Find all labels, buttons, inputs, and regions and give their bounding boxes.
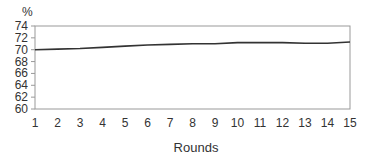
- y-axis-unit-label: %: [22, 5, 33, 19]
- x-tick-label: 5: [122, 116, 129, 130]
- y-axis: 6062646668707274: [15, 19, 35, 116]
- y-tick-label: 74: [15, 19, 29, 33]
- x-tick-label: 10: [231, 116, 245, 130]
- x-tick-label: 1: [32, 116, 39, 130]
- x-tick-label: 12: [276, 116, 290, 130]
- x-tick-label: 9: [212, 116, 219, 130]
- x-axis-title: Rounds: [174, 140, 219, 155]
- x-tick-label: 14: [321, 116, 335, 130]
- data-series: [35, 42, 350, 50]
- x-tick-label: 4: [99, 116, 106, 130]
- x-tick-label: 11: [254, 116, 267, 130]
- x-tick-label: 7: [167, 116, 174, 130]
- x-axis: 123456789101112131415: [32, 116, 357, 130]
- series-line: [35, 42, 350, 50]
- x-tick-label: 8: [189, 116, 196, 130]
- x-tick-label: 3: [77, 116, 84, 130]
- x-tick-label: 2: [54, 116, 61, 130]
- x-tick-label: 15: [343, 116, 357, 130]
- x-tick-label: 6: [144, 116, 151, 130]
- plot-frame: [35, 26, 350, 109]
- line-chart: % 6062646668707274 123456789101112131415…: [0, 0, 367, 161]
- x-tick-label: 13: [298, 116, 312, 130]
